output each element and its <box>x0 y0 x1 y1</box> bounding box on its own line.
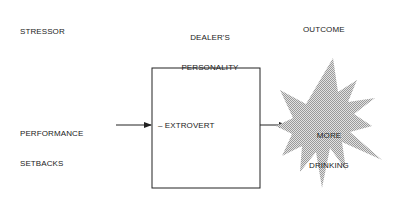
outcome-line2: DRINKING <box>299 161 359 171</box>
stressor-line1: PERFORMANCE <box>20 129 83 139</box>
outcome-line1: MORE <box>299 131 359 141</box>
header-personality-line2: PERSONALITY <box>160 63 260 73</box>
header-personality: DEALER'S PERSONALITY <box>160 13 260 83</box>
header-stressor: STRESSOR <box>20 27 65 37</box>
outcome-label: MORE DRINKING <box>299 111 359 181</box>
stressor-line2: SETBACKS <box>20 159 83 169</box>
personality-trait: – EXTROVERT <box>158 121 215 131</box>
header-personality-line1: DEALER'S <box>160 33 260 43</box>
stressor-label: PERFORMANCE SETBACKS <box>20 109 83 179</box>
header-outcome: OUTCOME <box>303 25 345 35</box>
